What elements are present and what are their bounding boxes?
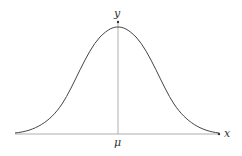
y-axis-arrow-icon xyxy=(117,21,119,23)
y-axis-label: y xyxy=(113,7,121,20)
mean-label: μ xyxy=(114,136,121,149)
bell-curve xyxy=(15,27,219,133)
x-axis-label: x xyxy=(224,127,231,140)
normal-distribution-diagram: x y μ xyxy=(0,0,242,156)
